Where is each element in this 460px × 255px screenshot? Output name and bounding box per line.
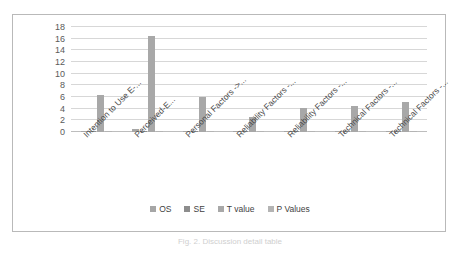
legend-item[interactable]: SE [184, 205, 204, 214]
y-axis-tick-label: 8 [60, 81, 65, 90]
legend-swatch-icon [268, 206, 274, 212]
bar [410, 131, 417, 132]
y-axis-tick-label: 6 [60, 93, 65, 102]
y-axis-tick-label: 10 [55, 69, 65, 78]
chart-legend: OSSET valueP Values [13, 205, 447, 214]
y-axis-tick-label: 14 [55, 46, 65, 55]
x-axis-labels: Intention to Use E-...Perceived-E...Pers… [71, 133, 427, 213]
y-axis-tick-label: 18 [55, 23, 65, 32]
y-axis-tick-label: 12 [55, 58, 65, 67]
figure: 181614121086420 Intention to Use E-...Pe… [0, 0, 460, 255]
legend-label: OS [159, 205, 171, 214]
y-axis-tick-label: 2 [60, 116, 65, 125]
bar [359, 131, 366, 132]
y-axis: 181614121086420 [37, 27, 67, 132]
figure-caption: Fig. 2. Discussion detail table [0, 238, 460, 246]
bar [156, 131, 163, 132]
legend-item[interactable]: OS [150, 205, 171, 214]
legend-item[interactable]: P Values [268, 205, 310, 214]
bar [207, 131, 214, 132]
y-axis-tick-label: 4 [60, 104, 65, 113]
chart-frame: 181614121086420 Intention to Use E-...Pe… [12, 14, 446, 232]
legend-label: P Values [277, 205, 310, 214]
legend-swatch-icon [218, 206, 224, 212]
legend-swatch-icon [150, 206, 156, 212]
legend-label: T value [227, 205, 255, 214]
legend-label: SE [193, 205, 204, 214]
bar [257, 131, 264, 132]
legend-swatch-icon [184, 206, 190, 212]
legend-item[interactable]: T value [218, 205, 255, 214]
y-axis-tick-label: 16 [55, 34, 65, 43]
bar [105, 131, 112, 132]
y-axis-tick-label: 0 [60, 128, 65, 137]
bar [308, 131, 315, 132]
